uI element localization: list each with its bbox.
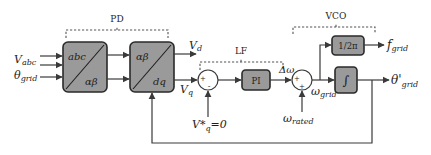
- sum-junction-1: + -: [198, 70, 218, 91]
- integrator-block: ∫: [335, 67, 357, 93]
- park-transform-block: αβ dq: [130, 42, 174, 92]
- sum-junction-2: + +: [292, 70, 312, 91]
- input-theta-grid: θgrid: [14, 69, 37, 83]
- delta-omega-label: Δω: [278, 64, 294, 75]
- pd-label: PD: [110, 14, 123, 24]
- gain-label: 1/2π: [338, 41, 358, 51]
- integrator-symbol: ∫: [343, 73, 350, 88]
- omega-grid-label: ωgrid: [311, 85, 337, 99]
- vco-bracket: [293, 27, 375, 34]
- pd-bracket: [66, 30, 168, 38]
- omega-rated-label: ωrated: [283, 112, 314, 126]
- clarke-transform-block: abc αβ: [63, 42, 107, 92]
- lf-group: LF: [200, 46, 283, 70]
- clarke-bottom-label: αβ: [85, 76, 98, 87]
- pll-block-diagram: PD LF VCO Vabc θgrid abc αβ αβ dq Vd Vq …: [0, 0, 431, 155]
- vd-label: Vd: [189, 39, 202, 53]
- vq-ref-label: V*q=0: [192, 118, 227, 133]
- park-top-label: αβ: [136, 51, 149, 62]
- sum2-sign-plus-bottom: +: [299, 83, 305, 91]
- vq-label: Vq: [180, 83, 193, 97]
- lf-bracket: [200, 62, 283, 70]
- sum1-sign-minus: -: [208, 82, 211, 91]
- theta-out-label: θ'grid: [391, 73, 418, 89]
- pi-controller-block: PI: [242, 70, 270, 90]
- arrow-to-gain: [320, 45, 331, 80]
- pd-group: PD: [66, 14, 168, 38]
- sum2-sign-plus-left: +: [294, 75, 300, 83]
- f-grid-label: fgrid: [386, 38, 408, 53]
- clarke-top-label: abc: [68, 51, 86, 62]
- pi-label: PI: [251, 76, 260, 86]
- input-v-abc: Vabc: [14, 53, 37, 67]
- sum1-sign-plus: +: [200, 75, 206, 83]
- vco-label: VCO: [325, 11, 347, 21]
- lf-label: LF: [235, 46, 247, 56]
- gain-block: 1/2π: [332, 36, 364, 55]
- park-bottom-label: dq: [153, 76, 166, 87]
- vco-group: VCO: [293, 11, 375, 34]
